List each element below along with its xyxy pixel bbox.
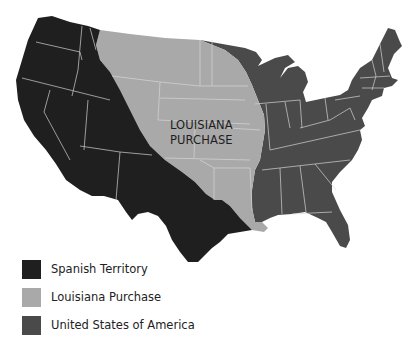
legend-item-louisiana-purchase: Louisiana Purchase xyxy=(22,287,195,307)
legend-swatch-spanish-territory xyxy=(22,260,41,279)
legend-label: Spanish Territory xyxy=(51,262,148,276)
region-label-line1: LOUISIANA xyxy=(170,118,233,133)
legend-label: Louisiana Purchase xyxy=(51,290,161,304)
legend-swatch-louisiana-purchase xyxy=(22,288,41,307)
region-label-line2: PURCHASE xyxy=(170,133,233,148)
legend-item-united-states: United States of America xyxy=(22,315,195,335)
legend-swatch-united-states xyxy=(22,316,41,335)
map-legend: Spanish Territory Louisiana Purchase Uni… xyxy=(22,259,195,339)
louisiana-purchase-label: LOUISIANA PURCHASE xyxy=(170,118,233,148)
legend-item-spanish-territory: Spanish Territory xyxy=(22,259,195,279)
legend-label: United States of America xyxy=(51,318,195,332)
